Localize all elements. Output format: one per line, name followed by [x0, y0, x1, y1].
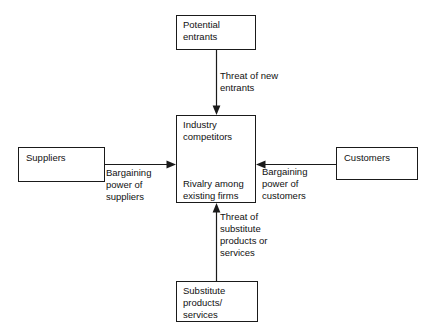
edge-label-bargaining-power-of-customers: Bargaining power of customers: [262, 166, 337, 202]
edge-label-bargaining-power-of-suppliers: Bargaining power of suppliers: [106, 167, 176, 203]
node-substitute-products-label: Substitute products/ services: [183, 285, 259, 321]
arrowhead-down-entrants: [213, 106, 221, 116]
node-industry-competitors-title: Industry competitors: [183, 119, 257, 143]
node-suppliers-label: Suppliers: [26, 152, 106, 164]
edge-label-threat-of-substitutes: Threat of substitute products or service…: [220, 211, 296, 259]
diagram-canvas: Potential entrants Industry competitors …: [0, 0, 432, 333]
node-industry-competitors-subtitle: Rivalry among existing firms: [183, 178, 257, 202]
edge-label-threat-of-new-entrants: Threat of new entrants: [220, 70, 310, 94]
node-customers-label: Customers: [344, 152, 422, 164]
node-potential-entrants-label: Potential entrants: [183, 19, 255, 43]
